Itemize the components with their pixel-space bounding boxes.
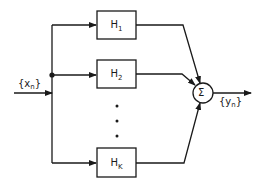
filter-label-h2: H2	[97, 68, 136, 82]
sigma-symbol: Σ	[198, 88, 204, 98]
ellipsis-dot	[116, 105, 119, 108]
filter-label-h1: H1	[97, 19, 136, 33]
ellipsis-dot	[116, 120, 119, 123]
output-label: {yn}	[219, 97, 242, 110]
ellipsis-dot	[116, 135, 119, 138]
hk-to-sum-arrow	[136, 103, 200, 163]
h2-to-sum-arrow	[136, 74, 195, 85]
junction-dot	[49, 72, 54, 77]
filter-label-hk: HK	[97, 157, 136, 171]
input-label: {xn}	[18, 79, 41, 92]
